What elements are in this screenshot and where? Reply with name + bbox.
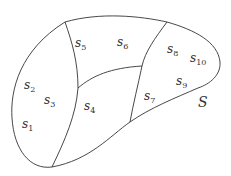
region-label-s10: s10 [190,52,206,67]
region-label-s6: s6 [117,36,128,51]
region-label-s4: s4 [84,100,95,115]
outer-boundary [12,16,220,167]
region-label-s2: s2 [24,79,35,94]
divider-middle [78,66,142,88]
region-label-s8: s8 [167,43,178,58]
region-label-s7: s7 [144,90,155,105]
region-label-s3: s3 [44,94,55,109]
region-label-s5: s5 [75,37,86,52]
region-label-s1: s1 [22,118,33,133]
set-label: S [198,95,208,109]
region-label-s9: s9 [176,75,187,90]
divider-right [130,22,167,122]
